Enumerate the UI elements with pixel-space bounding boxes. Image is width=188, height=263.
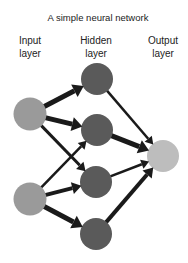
nodes-group (14, 63, 180, 250)
hidden-node-h1 (81, 63, 113, 95)
edge-i2-h3 (44, 188, 72, 195)
arrowhead-icon (71, 117, 83, 131)
edge-i2-h2 (40, 146, 81, 188)
output-node-o1 (147, 140, 179, 172)
edge-h2-o1 (110, 135, 139, 147)
hidden-node-h4 (80, 218, 112, 250)
network-diagram (0, 0, 188, 263)
edge-i1-h3 (40, 124, 80, 165)
edges-group (40, 90, 148, 224)
input-node-i2 (14, 183, 47, 216)
edge-i1-h1 (43, 91, 75, 107)
arrowheads-group (70, 85, 153, 229)
input-node-i1 (14, 98, 47, 131)
edge-i2-h4 (43, 206, 74, 222)
arrowhead-icon (71, 182, 82, 194)
edge-h3-o1 (109, 164, 142, 177)
edge-i1-h2 (44, 117, 72, 124)
